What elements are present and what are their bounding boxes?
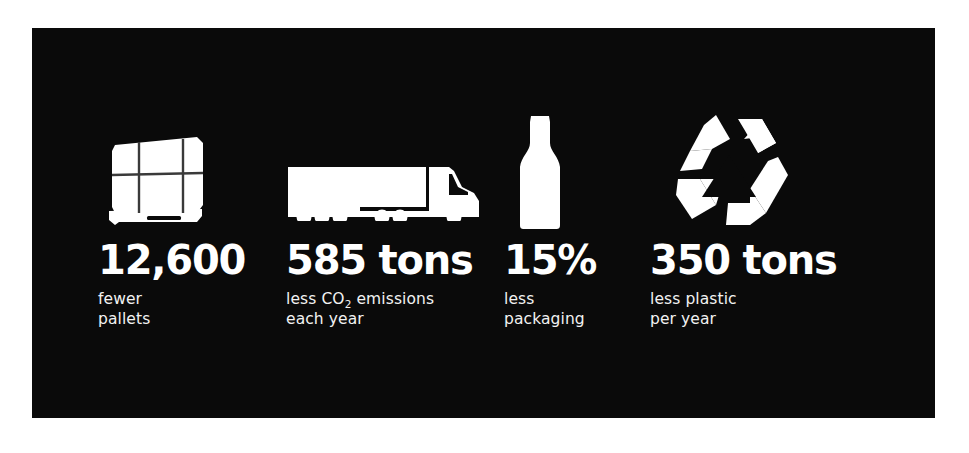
caption-text-before-subscript: less CO <box>286 290 345 308</box>
icon-container <box>286 101 496 231</box>
caption-text-after-subscript: emissions <box>351 290 434 308</box>
stat-caption-line-2: per year <box>650 309 860 329</box>
stat-caption-line-1: fewer <box>98 289 266 309</box>
stat-caption-line-2: packaging <box>504 309 634 329</box>
stat-text: 12,600 fewer pallets <box>98 240 266 330</box>
stats-row: 12,600 fewer pallets <box>32 28 935 418</box>
infographic-panel: 12,600 fewer pallets <box>32 28 935 418</box>
stat-column-packaging: 15% less packaging <box>504 28 634 418</box>
stat-caption: fewer pallets <box>98 289 266 330</box>
pallet-box-icon <box>101 131 213 231</box>
stat-text: 585 tons less CO2 emissions each year <box>286 240 496 330</box>
stat-column-emissions: 585 tons less CO2 emissions each year <box>286 28 496 418</box>
stat-value: 12,600 <box>98 240 266 280</box>
stat-caption: less packaging <box>504 289 634 330</box>
recycle-icon <box>666 109 792 231</box>
infographic-root: 12,600 fewer pallets <box>0 0 969 453</box>
stat-caption-line-1: less <box>504 289 634 309</box>
stat-caption-line-1: less plastic <box>650 289 860 309</box>
stat-text: 350 tons less plastic per year <box>650 240 860 330</box>
bottle-icon <box>512 113 568 231</box>
stat-value: 350 tons <box>650 240 860 280</box>
stat-column-pallets: 12,600 fewer pallets <box>98 28 266 418</box>
icon-container <box>98 101 266 231</box>
stat-column-plastic: 350 tons less plastic per year <box>650 28 860 418</box>
stat-value: 15% <box>504 240 634 280</box>
stat-caption-line-1: less CO2 emissions <box>286 289 496 309</box>
stat-caption: less CO2 emissions each year <box>286 289 496 330</box>
stat-caption-line-2: each year <box>286 309 496 329</box>
icon-container <box>650 101 860 231</box>
semi-truck-icon <box>286 153 482 231</box>
stat-caption-line-2: pallets <box>98 309 266 329</box>
stat-text: 15% less packaging <box>504 240 634 330</box>
stat-caption: less plastic per year <box>650 289 860 330</box>
stat-value: 585 tons <box>286 240 496 280</box>
icon-container <box>504 101 634 231</box>
